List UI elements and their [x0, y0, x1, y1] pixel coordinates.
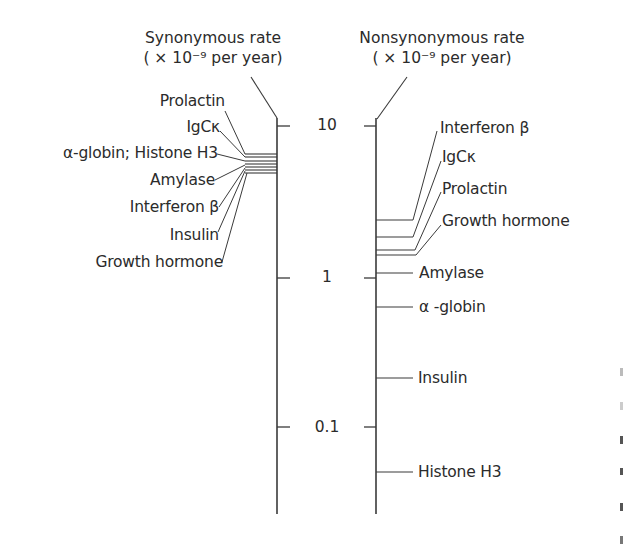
left-label-globin-histone: α-globin; Histone H3	[63, 144, 218, 162]
right-label-histone: Histone H3	[418, 463, 501, 481]
right-label-globin: α -globin	[419, 298, 486, 316]
leader-left-igck	[220, 131, 245, 157]
right-label-igck: IgCκ	[442, 148, 476, 166]
synonymous-axis-title: Synonymous rate ( × 10⁻⁹ per year)	[118, 28, 308, 68]
right-label-interferon: Interferon β	[440, 119, 529, 137]
left-label-igck: IgCκ	[186, 118, 220, 136]
leader-left-amylase	[215, 165, 245, 180]
nonsynonymous-title-leader	[377, 77, 407, 119]
leader-left-prolactin	[225, 111, 245, 154]
left-label-amylase: Amylase	[150, 171, 215, 189]
tick-label-0-1: 0.1	[307, 418, 347, 436]
tick-label-1: 1	[307, 268, 347, 286]
tick-label-10: 10	[307, 116, 347, 134]
leader-right-igck	[413, 161, 441, 237]
synonymous-title-line2: ( × 10⁻⁹ per year)	[118, 48, 308, 68]
synonymous-title-line1: Synonymous rate	[118, 28, 308, 48]
right-label-growth-hormone: Growth hormone	[442, 212, 570, 230]
nonsynonymous-axis-title: Nonsynonymous rate ( × 10⁻⁹ per year)	[352, 28, 532, 68]
leader-left-growth-hormone	[222, 173, 247, 262]
nonsynonymous-title-line1: Nonsynonymous rate	[352, 28, 532, 48]
leader-left-insulin	[218, 171, 245, 232]
left-label-interferon: Interferon β	[130, 198, 219, 216]
left-label-prolactin: Prolactin	[160, 92, 225, 110]
right-label-insulin: Insulin	[418, 369, 467, 387]
leader-right-interferon	[413, 131, 437, 220]
synonymous-title-leader	[251, 77, 277, 118]
rate-comparison-figure: Synonymous rate ( × 10⁻⁹ per year) Nonsy…	[0, 0, 625, 550]
right-label-prolactin: Prolactin	[442, 180, 507, 198]
right-label-amylase: Amylase	[419, 264, 484, 282]
nonsynonymous-title-line2: ( × 10⁻⁹ per year)	[352, 48, 532, 68]
left-label-insulin: Insulin	[170, 226, 219, 244]
left-label-growth-hormone: Growth hormone	[95, 253, 223, 271]
clipped-edge-text	[620, 368, 625, 550]
leader-left-globin	[217, 154, 245, 161]
